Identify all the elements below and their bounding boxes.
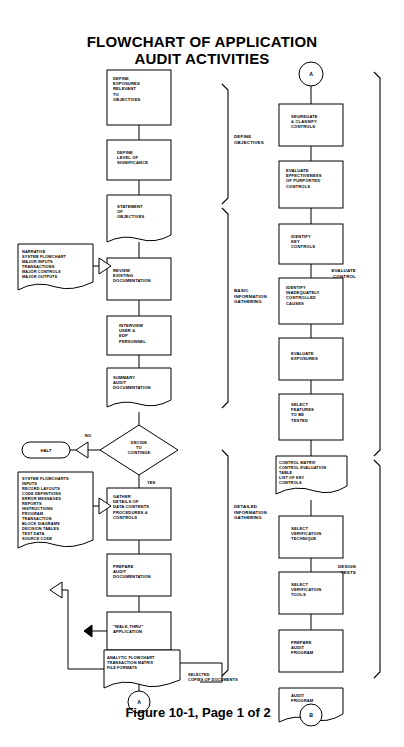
node-halt[interactable]: HALT xyxy=(22,442,70,458)
bracket-label: EVALUATECONTROL xyxy=(331,268,356,279)
node-system-flowcharts-inputs[interactable]: SYSTEM FLOWCHARTSINPUTSRECORD LAYOUTSCOD… xyxy=(18,472,93,548)
node-label-line: SEGREGATE& CLASSIFYCONTROLS xyxy=(291,114,318,129)
connector-bottom-right-b[interactable]: B xyxy=(300,704,322,726)
node-define-exposures[interactable]: DEFINEEXPOSURESRELEVANTTOOBJECTIVES xyxy=(107,70,171,125)
node-prepare-audit-program[interactable]: PREPAREAUDITPROGRAM xyxy=(279,630,343,672)
flowchart-canvas: FLOWCHART OF APPLICATION AUDIT ACTIVITIE… xyxy=(0,0,404,747)
bracket-label: DESIGNTESTS xyxy=(338,564,356,575)
page-title-line1: FLOWCHART OF APPLICATION xyxy=(87,33,318,50)
node-define-level-of-significance[interactable]: DEFINELEVEL OFSIGNIFICANCE xyxy=(107,140,171,180)
node-evaluate-exposures[interactable]: EVALUATEEXPOSURES xyxy=(279,338,343,380)
node-statement-of-objectives[interactable]: STATEMENTOFOBJECTIVES xyxy=(107,195,171,242)
page-title-line2: AUDIT ACTIVITIES xyxy=(134,50,269,67)
node-walk-thru-application[interactable]: "WALK-THRU"APPLICATION xyxy=(107,612,171,650)
node-review-existing-documentation[interactable]: REVIEWEXISTINGDOCUMENTATION xyxy=(107,258,171,300)
connector-label: B xyxy=(309,712,313,718)
node-narrative-inputs[interactable]: NARRATIVESYSTEM FLOWCHARTMAJOR INPUTSTRA… xyxy=(18,244,93,290)
edge-label-yes: YES xyxy=(147,480,156,485)
node-prepare-audit-documentation[interactable]: PREPAREAUDITDOCUMENTATION xyxy=(107,554,171,596)
node-evaluate-effectiveness[interactable]: EVALUATEEFFECTIVENESSOF PURPORTEDCONTROL… xyxy=(279,161,343,208)
connector-label: A xyxy=(309,71,313,77)
node-identify-key-controls[interactable]: IDENTIFYKEYCONTROLS xyxy=(279,224,343,264)
node-interview-user-edp-personnel[interactable]: INTERVIEWUSER &EDPPERSONNEL xyxy=(107,316,171,355)
node-summary-audit-documentation[interactable]: SUMMARYAUDITDOCUMENTATION xyxy=(107,368,171,407)
node-identify-inadequately-controlled-causes[interactable]: IDENTIFYINADEQUATELYCONTROLLEDCAUSES xyxy=(279,278,343,324)
flowchart-svg: FLOWCHART OF APPLICATION AUDIT ACTIVITIE… xyxy=(0,0,404,747)
connector-top-right-a[interactable]: A xyxy=(299,62,323,86)
node-label-line: HALT xyxy=(40,448,52,453)
node-select-verification-technique[interactable]: SELECTVERIFICATIONTECHNIQUE xyxy=(279,516,343,558)
node-analytic-flowchart[interactable]: ANALYTIC FLOWCHARTTRANSACTION MATRIXFILE… xyxy=(104,650,180,688)
node-select-verification-tools[interactable]: SELECTVERIFICATIONTOOLS xyxy=(279,572,343,614)
node-control-matrix[interactable]: CONTROL MATRIXCONTROL EVALUATIONTABLELIS… xyxy=(276,456,347,494)
node-gather-details[interactable]: GATHERDETAILS OFDATA CONTENTSPROCEDURES … xyxy=(107,488,171,540)
node-label-line: "WALK-THRU"APPLICATION xyxy=(113,624,143,634)
node-select-features-to-be-tested[interactable]: SELECTFEATURESTO BETESTED xyxy=(279,394,343,440)
figure-caption: Figure 10-1, Page 1 of 2 xyxy=(125,705,270,720)
edge-label-no: NO xyxy=(85,433,92,438)
node-segregate-classify-controls[interactable]: SEGREGATE& CLASSIFYCONTROLS xyxy=(279,104,343,146)
